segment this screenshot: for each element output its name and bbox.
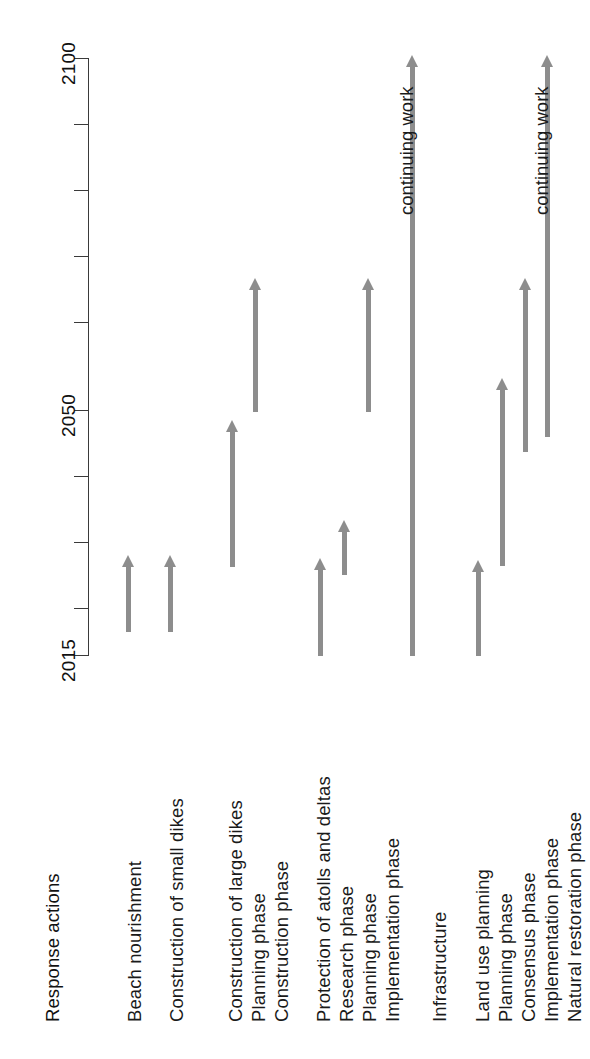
axis-tick-2090 <box>74 124 88 125</box>
annotation-continuing-work-infrastructure: continuing work <box>398 86 417 215</box>
axis-tick-2030 <box>74 542 88 543</box>
arrow-atolls-research-phase <box>314 558 327 656</box>
label-atolls-implementation-phase: Implementation phase <box>384 838 403 1022</box>
arrow-shaft <box>500 387 505 566</box>
arrow-land-use-implementation-phase <box>519 278 532 452</box>
axis-tick-2060 <box>74 322 88 323</box>
arrow-shaft <box>342 529 347 575</box>
label-land-planning-phase: Planning phase <box>497 893 516 1022</box>
label-large-dikes-planning-phase: Planning phase <box>250 893 269 1022</box>
arrow-shaft <box>318 567 323 656</box>
arrow-land-use-consensus-phase <box>496 378 509 566</box>
axis-tick-2080 <box>74 190 88 191</box>
axis-label-2100: 2100 <box>58 42 80 85</box>
arrow-land-use-planning-phase <box>472 560 485 656</box>
arrow-atolls-planning-phase <box>338 520 351 575</box>
arrow-atolls-implementation-phase <box>362 278 375 412</box>
arrow-beach-nourishment <box>122 555 135 632</box>
label-atolls-research-phase: Research phase <box>338 886 357 1022</box>
annotation-continuing-work-natural-restoration: continuing work <box>533 86 552 215</box>
arrow-large-dikes-construction-phase <box>249 278 262 412</box>
label-response-actions: Response actions <box>44 873 63 1022</box>
label-land-use-planning: Land use planning <box>474 869 493 1022</box>
axis-tick-2040 <box>74 476 88 477</box>
label-beach-nourishment: Beach nourishment <box>126 861 145 1022</box>
label-land-implementation-phase: Implementation phase <box>543 838 562 1022</box>
axis-tick-2070 <box>74 256 88 257</box>
arrow-shaft <box>253 287 258 412</box>
arrow-construction-small-dikes <box>164 555 177 632</box>
arrow-shaft <box>476 569 481 656</box>
label-large-dikes-construction-phase: Construction phase <box>273 861 292 1022</box>
label-atolls-planning-phase: Planning phase <box>361 893 380 1022</box>
arrow-shaft <box>366 287 371 412</box>
arrow-shaft <box>168 564 173 632</box>
timeline-figure: 2100 2050 2015 <box>0 0 590 1059</box>
axis-label-2050: 2050 <box>58 394 80 437</box>
label-infrastructure: Infrastructure <box>431 912 450 1022</box>
label-construction-large-dikes: Construction of large dikes <box>227 800 246 1022</box>
axis-line <box>88 58 89 656</box>
arrow-shaft <box>230 429 235 567</box>
arrow-shaft <box>126 564 131 632</box>
label-protection-atolls-deltas: Protection of atolls and deltas <box>315 776 334 1022</box>
arrow-shaft <box>523 287 528 452</box>
arrow-large-dikes-planning-phase <box>226 420 239 567</box>
axis-tick-2020 <box>74 608 88 609</box>
label-land-consensus-phase: Consensus phase <box>520 872 539 1022</box>
label-construction-small-dikes: Construction of small dikes <box>168 798 187 1022</box>
label-land-natural-restoration-phase: Natural restoration phase <box>566 812 585 1022</box>
axis-label-2015: 2015 <box>58 639 80 682</box>
